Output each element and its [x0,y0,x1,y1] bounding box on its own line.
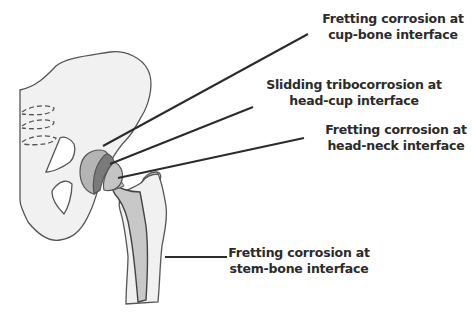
label-head-cup-tribocorrosion: Slidding tribocorrosion at head-cup inte… [255,77,453,109]
label-cup-bone-fretting: Fretting corrosion at cup-bone interface [307,11,472,43]
label-line: Fretting corrosion at [307,11,472,27]
label-line: Fretting corrosion at [310,122,472,138]
label-line: Fretting corrosion at [228,245,370,261]
label-line: cup-bone interface [307,27,472,43]
label-line: stem-bone interface [228,261,370,277]
leader-line-head-neck [118,138,304,178]
label-line: Slidding tribocorrosion at [255,77,453,93]
label-head-neck-fretting: Fretting corrosion at head-neck interfac… [310,122,472,154]
label-line: head-neck interface [310,138,472,154]
label-line: head-cup interface [255,93,453,109]
label-stem-bone-fretting: Fretting corrosion at stem-bone interfac… [228,245,370,277]
